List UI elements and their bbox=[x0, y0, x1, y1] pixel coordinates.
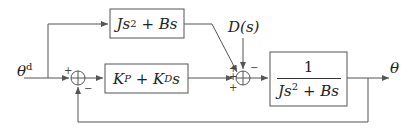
sum1-minus-sign: − bbox=[84, 84, 92, 94]
feedforward-branch-line bbox=[48, 24, 108, 78]
input-label: θd bbox=[17, 62, 32, 79]
sum2-plus-sign-bottom: + bbox=[229, 83, 237, 93]
feedforward-expression: Js2 + Bs bbox=[110, 9, 184, 38]
sum1-plus-sign: + bbox=[64, 66, 72, 76]
plant-expression: 1 Js2 + Bs bbox=[270, 52, 347, 106]
controller-expression: KP + KDs bbox=[105, 64, 188, 93]
sum2-minus-sign: − bbox=[250, 63, 258, 73]
diagram-canvas bbox=[0, 0, 411, 131]
disturbance-label: D(s) bbox=[228, 20, 259, 35]
output-label: θ bbox=[390, 61, 399, 76]
sum2-plus-sign-mid: + bbox=[229, 72, 237, 82]
